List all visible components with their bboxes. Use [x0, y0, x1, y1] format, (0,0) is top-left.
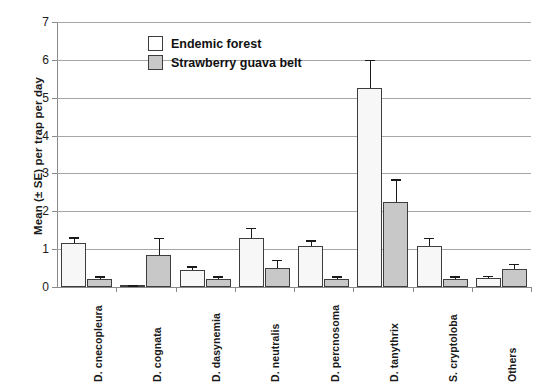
- legend-swatch-light: [148, 36, 163, 51]
- error-bar-line: [370, 60, 371, 88]
- error-bar-cap: [272, 260, 282, 262]
- bar-strawberry-guava-belt-5: [383, 202, 408, 287]
- x-axis-category-label: D. tanythrix: [388, 323, 400, 382]
- error-bar-cap: [306, 240, 316, 242]
- x-axis-category-label: D. cnecopleura: [92, 305, 104, 382]
- y-axis-tick-label: 6: [42, 53, 49, 67]
- legend-item: Strawberry guava belt: [148, 55, 302, 70]
- gridline: [57, 249, 531, 250]
- x-axis-tick: [472, 287, 473, 292]
- y-axis-tick: [52, 287, 57, 288]
- bar-strawberry-guava-belt-1: [146, 255, 171, 287]
- bar-strawberry-guava-belt-7: [502, 269, 527, 287]
- x-axis-tick: [294, 287, 295, 292]
- y-axis-tick-label: 5: [42, 91, 49, 105]
- error-bar-cap: [450, 276, 460, 278]
- x-axis-category-label: D. neutralis: [269, 324, 281, 382]
- error-bar-cap: [391, 179, 401, 181]
- gridline: [57, 22, 531, 23]
- gridline: [57, 211, 531, 212]
- error-bar-cap: [213, 276, 223, 278]
- y-axis-tick: [52, 173, 57, 174]
- x-axis-category-label: D. dasynemia: [210, 313, 222, 382]
- x-axis-tick: [353, 287, 354, 292]
- bar-strawberry-guava-belt-6: [443, 279, 468, 287]
- error-bar-line: [159, 238, 160, 255]
- legend-item: Endemic forest: [148, 36, 302, 51]
- error-bar-cap: [365, 60, 375, 62]
- error-bar-cap: [424, 238, 434, 240]
- bar-endemic-forest-5: [357, 88, 382, 287]
- x-axis-tick: [116, 287, 117, 292]
- y-axis-tick-label: 0: [42, 280, 49, 294]
- x-axis-category-label: D. cognata: [151, 327, 163, 382]
- x-axis-tick: [413, 287, 414, 292]
- error-bar-cap: [187, 266, 197, 268]
- bar-strawberry-guava-belt-2: [206, 279, 231, 287]
- bar-strawberry-guava-belt-4: [324, 279, 349, 287]
- y-axis-tick: [52, 22, 57, 23]
- bar-endemic-forest-4: [298, 246, 323, 287]
- bar-endemic-forest-6: [417, 246, 442, 287]
- bar-endemic-forest-7: [476, 278, 501, 287]
- bar-endemic-forest-0: [61, 243, 86, 287]
- legend-swatch-dark: [148, 55, 163, 70]
- x-axis-tick: [531, 287, 532, 292]
- y-axis-tick-label: 4: [42, 129, 49, 143]
- bar-strawberry-guava-belt-0: [87, 279, 112, 287]
- error-bar-cap: [483, 276, 493, 278]
- y-axis-tick: [52, 211, 57, 212]
- x-axis-category-label: D. percnosoma: [329, 305, 341, 382]
- bar-strawberry-guava-belt-3: [265, 268, 290, 287]
- error-bar-cap: [95, 276, 105, 278]
- x-axis-category-label: S. cryptoloba: [447, 314, 459, 382]
- legend-label: Endemic forest: [171, 37, 261, 51]
- y-axis-tick-label: 7: [42, 15, 49, 29]
- gridline: [57, 98, 531, 99]
- y-axis-tick: [52, 136, 57, 137]
- error-bar-cap: [332, 276, 342, 278]
- gridline: [57, 173, 531, 174]
- error-bar-cap: [509, 264, 519, 266]
- error-bar-line: [396, 179, 397, 202]
- y-axis-tick: [52, 249, 57, 250]
- error-bar-cap: [246, 228, 256, 230]
- x-axis-tick: [235, 287, 236, 292]
- bar-endemic-forest-2: [180, 270, 205, 287]
- y-axis-tick: [52, 98, 57, 99]
- y-axis-title: Mean (± SE) per trap per day: [32, 41, 44, 271]
- y-axis-line: [57, 22, 58, 287]
- y-axis-tick: [52, 60, 57, 61]
- legend-label: Strawberry guava belt: [171, 56, 302, 70]
- bar-endemic-forest-3: [239, 238, 264, 287]
- error-bar-cap: [128, 285, 138, 287]
- y-axis-tick-label: 1: [42, 242, 49, 256]
- y-axis-tick-label: 3: [42, 166, 49, 180]
- x-axis-tick: [176, 287, 177, 292]
- x-axis-category-label: Others: [506, 348, 518, 382]
- chart-legend: Endemic forestStrawberry guava belt: [148, 36, 302, 70]
- error-bar-cap: [154, 238, 164, 240]
- gridline: [57, 136, 531, 137]
- error-bar-cap: [69, 237, 79, 239]
- bar-chart-figure: Mean (± SE) per trap per day 01234567 En…: [0, 0, 552, 389]
- y-axis-tick-label: 2: [42, 204, 49, 218]
